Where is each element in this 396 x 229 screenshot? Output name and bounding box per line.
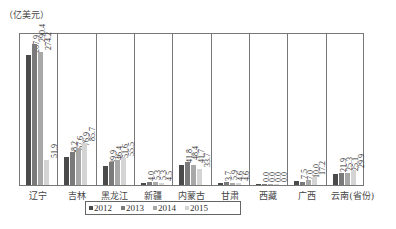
bar-2014 — [115, 160, 120, 185]
bar-2012 — [179, 165, 184, 185]
bar-2013 — [70, 152, 75, 185]
bar-value-label: 29.9 — [358, 154, 366, 168]
chart-legend: 2012201320142015 — [85, 201, 241, 215]
category-group: 267.9290.4274.251.9 — [20, 34, 58, 185]
bar-2013 — [339, 173, 344, 185]
bar-2015 — [82, 143, 87, 185]
bar-2014 — [38, 52, 43, 185]
x-axis-tick-label: 西藏 — [248, 189, 288, 202]
bar-2014 — [345, 173, 350, 185]
bar-2014 — [191, 165, 196, 185]
bar-2012 — [294, 181, 299, 185]
category-group: 4.05.35.34.5 — [135, 34, 173, 185]
bar-value-label: 274.2 — [45, 32, 53, 50]
legend-label: 2014 — [158, 203, 176, 213]
bar-2014 — [230, 183, 235, 185]
legend-label: 2013 — [126, 203, 144, 213]
bar-2015 — [44, 160, 49, 185]
category-group: 3.75.94.64.6 — [212, 34, 250, 185]
bar-2013 — [32, 44, 37, 185]
bar-2012 — [103, 166, 108, 185]
square-swatch-mid-icon — [121, 206, 125, 210]
bar-2013 — [185, 162, 190, 186]
bar-2012 — [256, 184, 261, 186]
legend-item-2012: 2012 — [89, 203, 112, 213]
x-axis-tick-label: 广西 — [287, 189, 327, 202]
square-swatch-dark-icon — [89, 206, 93, 210]
bar-2014 — [268, 184, 273, 186]
x-axis-tick-label: 云南(省份) — [323, 189, 383, 202]
bar-2015 — [159, 183, 164, 185]
bar-2015 — [121, 158, 126, 185]
y-axis-unit-label: （亿美元） — [4, 8, 49, 21]
legend-item-2015: 2015 — [185, 203, 208, 213]
bar-2013 — [262, 184, 267, 186]
bar-2012 — [141, 183, 146, 185]
category-group: 7.57.010.017.2 — [288, 34, 326, 185]
bar-2012 — [333, 174, 338, 185]
square-swatch-lightest-icon — [185, 206, 189, 210]
category-group: 39.946.451.655.5 — [97, 34, 135, 185]
bar-2015 — [351, 170, 356, 185]
bar-2012 — [26, 55, 31, 185]
bar-2012 — [218, 183, 223, 185]
legend-label: 2015 — [190, 203, 208, 213]
category-group: 0.00.00.00.0 — [250, 34, 288, 185]
bar-2013 — [147, 182, 152, 185]
chart-plot-area: 267.9290.4274.251.958.267.676.985.739.94… — [19, 33, 364, 186]
bar-2013 — [109, 162, 114, 185]
category-group: 21.925.325.129.9 — [327, 34, 365, 185]
legend-label: 2012 — [94, 203, 112, 213]
x-axis-tick-label: 辽宁 — [18, 189, 58, 202]
bar-2013 — [300, 182, 305, 185]
legend-item-2013: 2013 — [121, 203, 144, 213]
bar-2015 — [236, 183, 241, 185]
bar-2012 — [64, 157, 69, 185]
category-group: 41.848.441.733.7 — [173, 34, 211, 185]
bar-2014 — [76, 148, 81, 185]
category-group: 58.267.676.985.7 — [58, 34, 96, 185]
legend-item-2014: 2014 — [153, 203, 176, 213]
bar-2014 — [153, 182, 158, 185]
bar-2015 — [197, 169, 202, 185]
bar-2015 — [274, 184, 279, 186]
bar-2013 — [224, 182, 229, 185]
bar-2014 — [306, 180, 311, 185]
bar-2015 — [312, 177, 317, 185]
square-swatch-light-icon — [153, 206, 157, 210]
